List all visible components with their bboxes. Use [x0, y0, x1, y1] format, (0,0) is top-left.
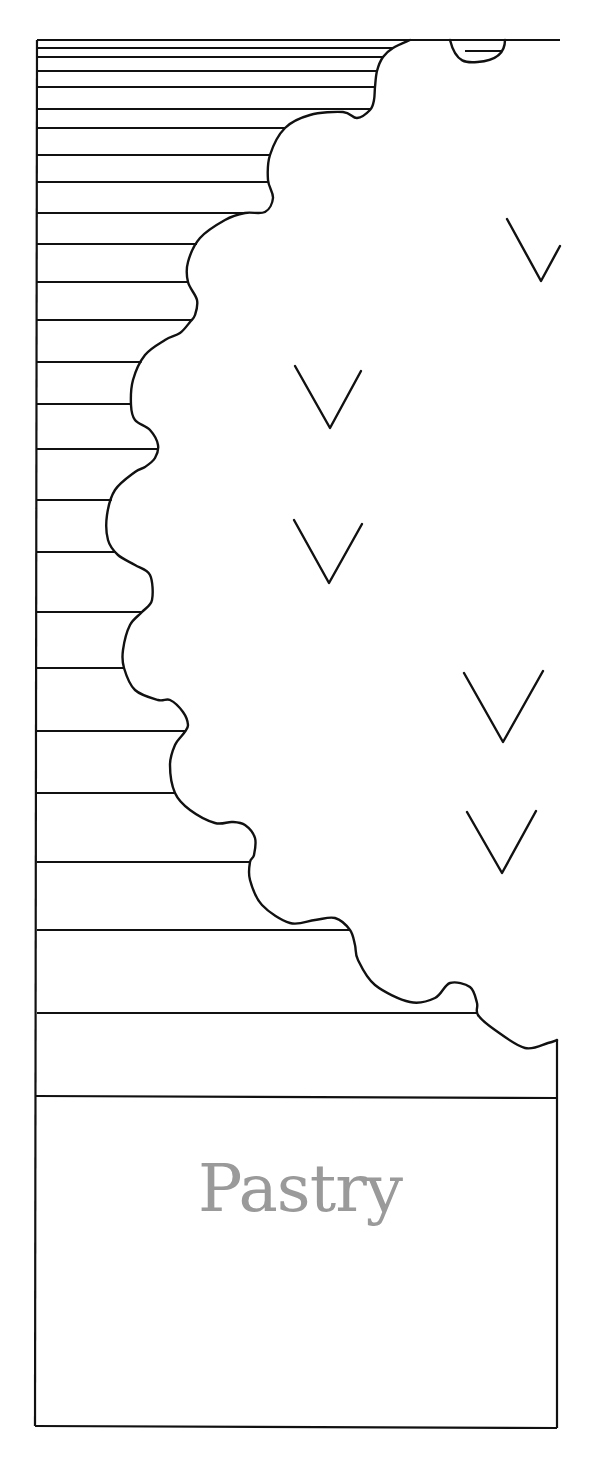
pastry-diagram	[0, 0, 602, 1469]
v-mark-3-icon	[294, 520, 362, 583]
v-mark-1-icon	[507, 219, 560, 281]
left-border	[35, 40, 37, 1426]
v-marks	[294, 219, 560, 873]
top-small-bump	[450, 40, 505, 62]
bottom-border	[35, 1426, 557, 1428]
scalloped-edge	[106, 40, 557, 1048]
layer-lines	[37, 48, 478, 1013]
pastry-label: Pastry	[150, 1150, 450, 1227]
base-divider	[36, 1096, 557, 1098]
v-mark-4-icon	[464, 671, 543, 742]
v-mark-5-icon	[467, 811, 536, 873]
v-mark-2-icon	[295, 366, 361, 428]
